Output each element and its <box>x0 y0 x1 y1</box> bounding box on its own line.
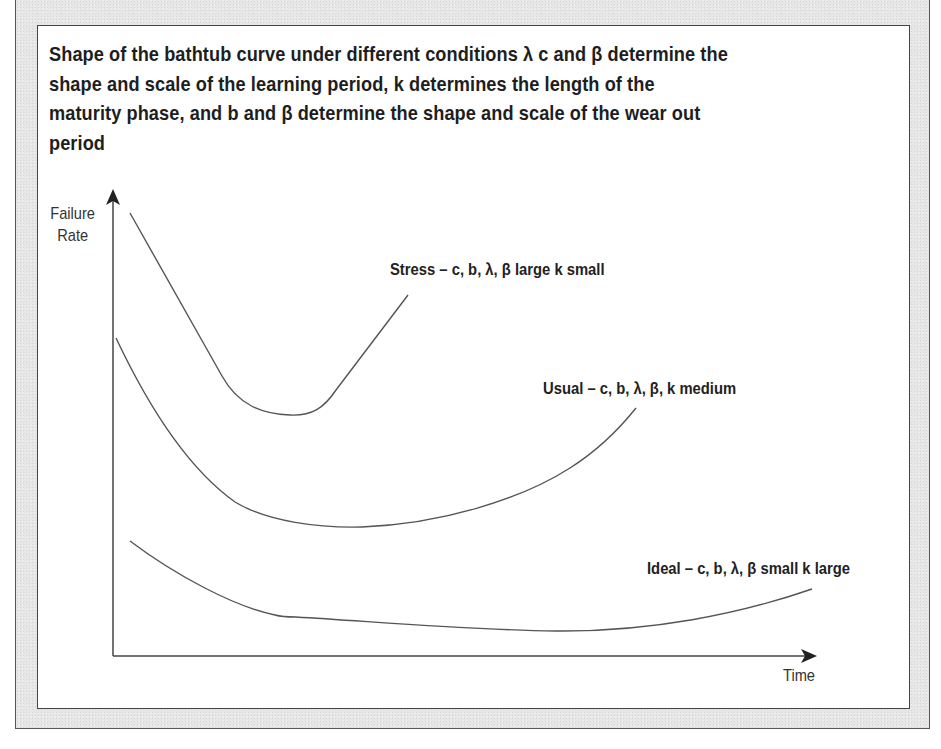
ideal-curve-label: Ideal – c, b, λ, β small k large <box>647 558 850 580</box>
usual-curve-label: Usual – c, b, λ, β, k medium <box>543 378 736 400</box>
usual-curve <box>116 338 636 527</box>
stress-curve <box>130 213 408 415</box>
y-axis-label: Failure Rate <box>46 203 99 247</box>
bathtub-chart <box>0 0 941 749</box>
x-axis-label: Time <box>783 665 815 687</box>
y-axis-label-line2: Rate <box>46 225 99 247</box>
y-axis-label-line1: Failure <box>46 203 99 225</box>
stress-curve-label: Stress – c, b, λ, β large k small <box>390 259 605 281</box>
ideal-curve <box>130 541 812 631</box>
